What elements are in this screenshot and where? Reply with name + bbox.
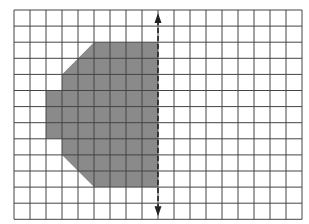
shaded-half-shape [46, 42, 158, 187]
arrow-up-icon [155, 13, 162, 23]
symmetry-grid-diagram [0, 0, 309, 224]
arrow-down-icon [155, 206, 162, 216]
shaded-polygon [46, 42, 158, 187]
